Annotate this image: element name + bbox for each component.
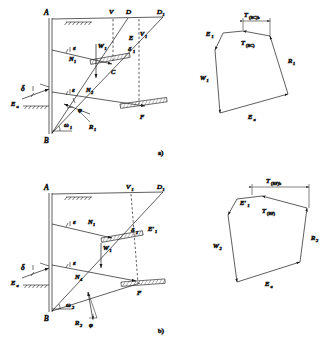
label-a-phi: φ [78,106,82,114]
poly-b-vec-ea [237,262,300,282]
excavation-level-hatch-b [23,285,49,288]
label-b-force-n4: N 4 [74,273,82,282]
label-a-delta: δ [21,84,25,93]
force-n1-a [52,50,112,64]
svg-text:D: D [156,8,162,16]
svg-text:1: 1 [93,222,95,227]
svg-text:1: 1 [136,230,138,235]
panel-b-caption: b) [158,327,165,335]
svg-text:E: E [264,280,270,287]
epsilon-ticks-n1-a [66,47,70,53]
ground-surface-b [52,192,163,194]
label-b-epsilon-2: ε [73,259,76,266]
svg-text:E′: E′ [147,225,154,232]
poly-a-vec-ea [220,94,288,113]
poly-a-label-e1: E 1 [205,30,214,39]
label-b-force-n1: N 1 [87,218,95,227]
wall-b [49,193,52,312]
svg-text:δ: δ [128,45,132,52]
label-b-force-r2: R 2 [74,319,82,328]
label-a-point-D: D [125,8,131,16]
anchor-bar-lower-a [120,97,167,108]
phi-wedge-b [88,292,97,319]
force-n4-b [52,265,136,281]
label-b-point-F: F [136,289,142,296]
poly-b-vec-ep1 [228,199,237,215]
svg-text:1: 1 [207,78,209,83]
svg-text:1: 1 [74,59,76,64]
label-a-point-D1: D 1 [156,8,165,17]
poly-b-vec-w2 [228,215,237,282]
poly-a-label-tbcb: T (BC)b [244,11,259,20]
svg-text:1: 1 [105,46,107,51]
label-a-force-r1: R 1 [88,123,96,132]
svg-text:V: V [126,183,131,191]
label-b-force-ea: E a [10,279,19,288]
svg-text:E: E [205,30,211,37]
label-a-epsilon-2: ε [72,86,75,93]
svg-text:2: 2 [316,238,318,243]
poly-b-label-r2: R 2 [310,234,318,243]
force-ea-b [22,268,49,278]
panel-b-wedge-diagram: A B V 1 D 1 E′ 1 F ε N 1 W 1 ε N 4 δ [10,183,165,335]
force-r2-b [88,292,93,320]
poly-b-label-tbf: T (BF) [262,207,276,216]
svg-text:1: 1 [163,187,165,192]
panel-a-caption: a) [158,149,164,157]
label-a-point-V: V [109,8,114,16]
poly-b-label-ep1: E′ 1 [239,199,250,208]
figure-canvas: A B V D D 1 E V 1 C F ε N 1 W 1 ε N 2 δ … [0,0,335,349]
svg-text:(BC): (BC) [246,43,255,48]
label-b-point-A: A [43,183,49,192]
svg-text:1: 1 [155,229,157,234]
svg-text:(BF): (BF) [267,211,276,216]
svg-text:(BF)b: (BF)b [271,181,281,186]
label-a-point-F: F [139,113,145,120]
panel-b-force-polygon: T (BF)b T (BF) E′ 1 W 2 E a R 2 [213,177,318,289]
svg-text:a: a [271,284,273,289]
svg-text:E: E [10,279,16,286]
epsilon-ticks-n1-b [66,221,70,227]
poly-a-label-tbc: T (BC) [241,39,255,48]
poly-a-label-r1: R 1 [287,57,295,66]
label-a-point-C: C [111,68,116,75]
panel-a-wedge-diagram: A B V D D 1 E V 1 C F ε N 1 W 1 ε N 2 δ … [10,8,167,157]
label-a-force-n2: N 2 [85,86,93,95]
svg-text:(BC)b: (BC)b [249,15,259,20]
svg-text:2: 2 [91,90,93,95]
force-n2-a [52,92,145,106]
svg-text:E: E [247,113,253,120]
failure-plane-bd-a [52,18,128,133]
svg-text:4: 4 [80,277,82,282]
svg-text:ω: ω [64,121,69,128]
anchor-bar-lower-b [121,279,165,286]
delta-ticks-a [31,84,49,97]
label-b-phi: φ [89,321,93,329]
poly-b-vec-tbf [262,196,307,208]
wall-a [49,18,52,134]
svg-text:2: 2 [80,323,82,328]
svg-text:E′: E′ [239,199,246,206]
label-a-point-A: A [43,8,49,17]
label-a-force-n1: N 1 [68,55,76,64]
svg-text:a: a [17,104,19,109]
label-a-omega1: ω 1 [64,121,72,130]
poly-b-label-tbfb: T (BF)b [266,177,281,186]
svg-text:ω: ω [66,301,71,308]
svg-text:1: 1 [70,125,72,130]
figure-footer-caption [0,341,335,349]
poly-a-vec-e1 [215,33,223,50]
poly-a-vec-w1 [215,50,220,113]
label-b-epsilon-1: ε [73,218,76,225]
excavation-level-hatch-a [23,106,49,109]
poly-a-vec-close [223,31,243,33]
svg-text:E: E [10,100,16,107]
ground-hatch-top-b [65,197,93,200]
svg-text:a: a [17,283,19,288]
figure-root: A B V D D 1 E V 1 C F ε N 1 W 1 ε N 2 δ … [0,0,335,349]
poly-a-label-ea: E a [247,113,256,122]
svg-text:1: 1 [133,49,135,54]
label-b-omega2: ω 2 [66,301,74,310]
panel-a-force-polygon: T (BC)b T (BC) E 1 W 1 E a R 1 [200,11,295,122]
label-a-point-B: B [44,136,49,145]
